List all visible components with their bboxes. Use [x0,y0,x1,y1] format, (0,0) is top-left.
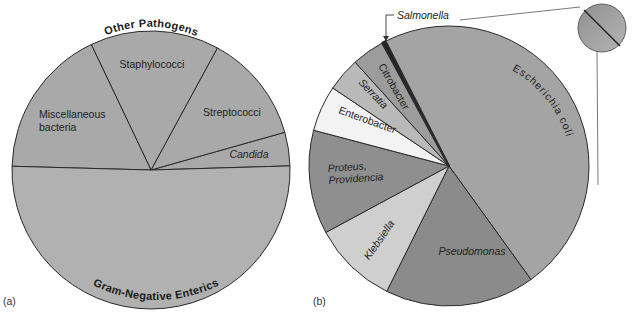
salmonella-leader-line [386,15,394,37]
misc-line-2: bacteria [39,121,77,133]
panel-label-a: (a) [3,295,16,307]
slice-label-pseudomonas: Pseudomonas [438,245,506,257]
slice-label-salmonella: Salmonella [397,9,449,21]
pie-chart-figure: Other Pathogens Staphylococci Miscellane… [0,0,637,320]
slice-label-candida: Candida [229,148,268,160]
inset-connector-top [460,7,580,20]
slice-label-staphylococci: Staphylococci [120,58,185,70]
slice-label-streptococci: Streptococci [203,106,261,118]
inset-connector-bottom [597,50,598,185]
figure-caption-cropped [0,311,637,320]
panel-label-b: (b) [313,295,326,307]
pie-chart-a [12,31,290,309]
misc-line-1: Miscellaneous [39,108,106,120]
pie-slice-gram-negative-enterics [12,166,290,309]
